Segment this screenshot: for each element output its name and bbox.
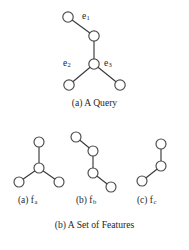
feature-a-caption: (a) fa	[18, 196, 37, 206]
feature-c-caption: (c) fc	[137, 196, 156, 206]
figure-root: e1 e2 e3 (a) A Query (a) fa (b) fb (c) f…	[0, 0, 189, 250]
feature-a-node-top	[34, 137, 44, 147]
edge-label-e3: e3	[104, 59, 112, 69]
feature-a-caption-subscript: a	[34, 198, 38, 205]
feature-c-graph	[137, 139, 166, 186]
feature-c-node-top	[156, 139, 166, 149]
feature-b-node-upper-mid	[88, 146, 98, 156]
edge-label-e3-subscript: 3	[108, 61, 111, 68]
feature-b-node-lower-mid	[88, 168, 98, 178]
query-node-bottom-left	[64, 80, 74, 90]
feature-c-caption-base: (c) f	[137, 195, 153, 205]
feature-b-caption: (b) fb	[76, 196, 96, 206]
feature-a-graph	[14, 137, 64, 187]
query-graph	[63, 12, 125, 90]
feature-a-caption-base: (a) f	[18, 195, 34, 205]
query-node-top-left	[63, 12, 73, 22]
feature-c-node-middle	[156, 161, 166, 171]
graph-drawing-layer	[0, 0, 189, 250]
feature-c-node-bottom-left	[137, 176, 147, 186]
feature-b-node-top	[71, 132, 81, 142]
feature-a-node-center	[34, 163, 44, 173]
features-caption: (b) A Set of Features	[0, 220, 189, 230]
edge-label-e2-subscript: 2	[67, 61, 70, 68]
query-node-upper-middle	[89, 31, 99, 41]
feature-b-caption-base: (b) f	[76, 195, 92, 205]
feature-a-node-bottom-left	[14, 177, 24, 187]
feature-b-graph	[71, 132, 116, 192]
feature-b-caption-subscript: b	[92, 198, 96, 205]
feature-b-node-bottom	[106, 182, 116, 192]
feature-c-caption-subscript: c	[153, 198, 157, 205]
query-caption: (a) A Query	[0, 98, 189, 108]
edge-label-e1: e1	[82, 12, 90, 22]
edge-label-e2: e2	[63, 59, 71, 69]
query-node-branch-center	[89, 59, 99, 69]
query-node-bottom-right	[115, 80, 125, 90]
feature-a-node-bottom-right	[54, 177, 64, 187]
edge-label-e1-subscript: 1	[86, 14, 89, 21]
